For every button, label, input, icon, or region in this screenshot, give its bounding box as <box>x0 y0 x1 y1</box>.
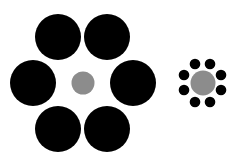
small-circle-bottom-left <box>190 97 201 108</box>
large-circle-top-right <box>84 14 130 60</box>
large-circle-bottom-left <box>35 106 81 152</box>
small-circle-lower-right <box>216 85 227 96</box>
small-circle-upper-right <box>216 70 227 81</box>
large-circle-middle-right <box>110 60 156 106</box>
small-circle-top-right <box>205 59 216 70</box>
large-circle-bottom-right <box>84 106 130 152</box>
large-circle-top-left <box>35 14 81 60</box>
center-circle-right <box>191 71 216 96</box>
small-circle-upper-left <box>179 70 190 81</box>
small-circle-lower-left <box>179 85 190 96</box>
large-circle-middle-left <box>10 60 56 106</box>
ebbinghaus-illusion <box>0 0 241 166</box>
center-circle-left <box>72 72 95 95</box>
small-circle-bottom-right <box>205 97 216 108</box>
small-circle-top-left <box>190 59 201 70</box>
